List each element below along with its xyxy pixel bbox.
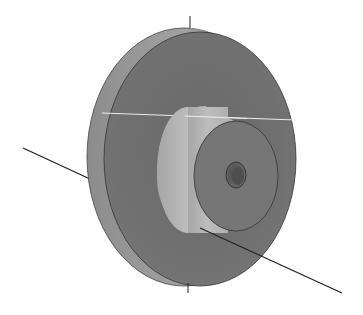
rotation-axis-back <box>23 148 90 179</box>
part-render <box>0 0 363 315</box>
cad-viewport[interactable]: Flanged hub part (isometric view) <box>0 0 363 315</box>
bore <box>226 162 246 188</box>
